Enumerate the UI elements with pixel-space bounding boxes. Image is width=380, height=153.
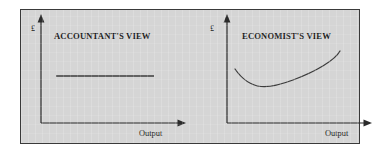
x-axis-economists xyxy=(227,120,372,127)
cost-curve-figure: £ ACCOUNTANT'S VIEW Output xyxy=(0,0,380,153)
chart-title-economists: ECONOMIST'S VIEW xyxy=(242,31,331,41)
y-axis-label-accountants: £ xyxy=(31,24,35,33)
chart-title-accountants: ACCOUNTANT'S VIEW xyxy=(54,31,151,41)
chart-accountants-view: £ ACCOUNTANT'S VIEW Output xyxy=(21,10,191,145)
y-axis-economists xyxy=(224,14,231,123)
x-axis-label-economists: Output xyxy=(325,129,348,138)
y-axis-accountants xyxy=(38,14,45,123)
y-axis-label-economists: £ xyxy=(210,24,214,33)
cost-curve-u-shaped xyxy=(235,51,340,87)
x-axis-accountants xyxy=(41,120,186,127)
figure-panel: £ ACCOUNTANT'S VIEW Output xyxy=(20,9,360,144)
x-axis-label-accountants: Output xyxy=(139,129,162,138)
chart-economists-view: £ ECONOMIST'S VIEW Output xyxy=(207,10,377,145)
